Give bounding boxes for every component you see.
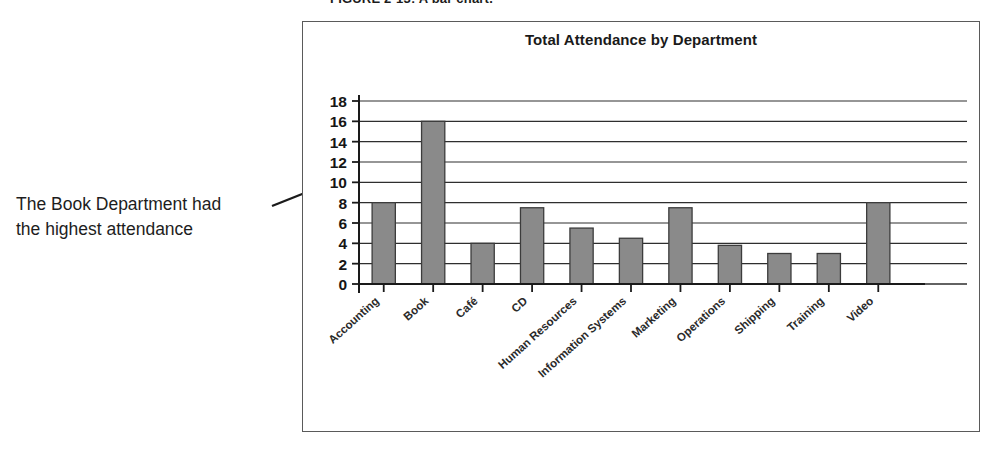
x-axis-category-label: Marketing	[629, 295, 677, 340]
bar	[520, 208, 543, 284]
bar	[422, 121, 445, 284]
y-axis-tick-label: 6	[338, 215, 347, 232]
bar	[619, 238, 642, 284]
y-axis-tick-label: 2	[338, 256, 347, 273]
x-axis-category-label: Accounting	[326, 295, 381, 346]
x-axis-category-label: Video	[844, 295, 875, 325]
bar	[817, 254, 840, 285]
x-axis-category-label: Shipping	[732, 295, 777, 337]
annotation-line-1: The Book Department had	[16, 192, 284, 217]
figure-caption: FIGURE 2-13: A bar chart.	[330, 0, 493, 6]
x-axis-category-label: Operations	[674, 295, 727, 345]
chart-frame: Total Attendance by Department 024681012…	[302, 21, 980, 432]
x-axis-category-label: Training	[785, 295, 826, 334]
x-axis-category-label: Café	[453, 295, 480, 321]
y-axis-tick-label: 14	[330, 134, 348, 151]
x-axis-category-label: Book	[401, 294, 431, 323]
x-axis	[359, 284, 925, 292]
bar	[768, 254, 791, 285]
bar	[669, 208, 692, 284]
annotation-callout: The Book Department had the highest atte…	[16, 192, 284, 242]
x-axis-category-label: Information Systems	[536, 295, 629, 380]
bar	[570, 228, 593, 284]
y-axis-tick-label: 4	[338, 235, 347, 252]
y-axis-tick-label: 10	[330, 174, 347, 191]
bar	[471, 243, 494, 284]
bar	[867, 203, 890, 284]
y-axis-tick-label: 16	[330, 113, 348, 130]
y-axis: 024681012141618	[330, 93, 359, 293]
bar-chart-plot: 024681012141618 AccountingBookCaféCDHuma…	[303, 22, 981, 433]
y-axis-tick-label: 0	[338, 276, 347, 293]
bar	[718, 245, 741, 284]
x-axis-category-label: CD	[509, 295, 529, 315]
x-axis-labels: AccountingBookCaféCDHuman ResourcesInfor…	[326, 294, 876, 379]
y-axis-tick-label: 18	[330, 93, 348, 110]
annotation-line-2: the highest attendance	[16, 217, 284, 242]
bar	[372, 203, 395, 284]
y-axis-tick-label: 12	[330, 154, 347, 171]
y-axis-tick-label: 8	[338, 195, 347, 212]
